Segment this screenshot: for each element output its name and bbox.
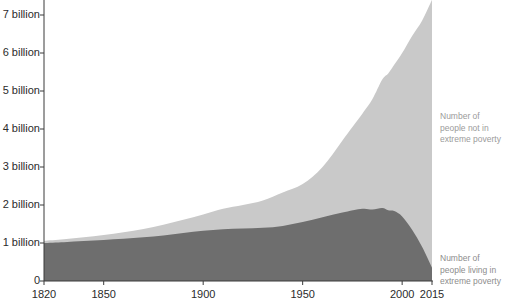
y-tick-label-text: 3 billion: [0, 161, 40, 172]
y-tick-label-text: 1 billion: [0, 237, 40, 248]
annotation-line: extreme poverty: [440, 134, 501, 146]
x-tick-label: 2015: [420, 289, 444, 300]
x-tick-marks: [44, 281, 432, 285]
y-tick-label-text: 4 billion: [0, 123, 40, 134]
not-in-poverty-label: Number ofpeople not inextreme poverty: [440, 111, 501, 146]
y-tick-label-text: 6 billion: [0, 47, 40, 58]
x-tick-label: 1850: [91, 289, 115, 300]
x-tick-label: 1900: [191, 289, 215, 300]
y-tick-label: 2 billion: [0, 199, 40, 210]
annotation-line: people living in: [440, 265, 501, 277]
y-tick-label-text: 5 billion: [0, 85, 40, 96]
in-poverty-label: Number ofpeople living inextreme poverty: [440, 253, 501, 288]
y-tick-label: 3 billion: [0, 161, 40, 172]
annotation-line: extreme poverty: [440, 276, 501, 288]
x-tick-label: 1820: [32, 289, 56, 300]
area-series-group: [44, 0, 432, 281]
chart-plot-area: [0, 0, 507, 307]
poverty-population-chart: 7 billion6 billion5 billion4 billion3 bi…: [0, 0, 507, 307]
x-tick-label: 1950: [290, 289, 314, 300]
y-tick-label: 4 billion: [0, 123, 40, 134]
x-tick-label: 2000: [390, 289, 414, 300]
annotation-line: Number of: [440, 253, 501, 265]
y-tick-label: 7 billion: [0, 9, 40, 20]
y-tick-label: 1 billion: [0, 237, 40, 248]
y-tick-label-text: 7 billion: [0, 9, 40, 20]
y-tick-label-text: 0: [0, 275, 40, 286]
annotation-line: people not in: [440, 123, 501, 135]
y-tick-label-text: 2 billion: [0, 199, 40, 210]
y-tick-label: 6 billion: [0, 47, 40, 58]
y-tick-label: 0: [0, 275, 40, 286]
y-tick-marks: [40, 15, 44, 281]
y-tick-label: 5 billion: [0, 85, 40, 96]
annotation-line: Number of: [440, 111, 501, 123]
